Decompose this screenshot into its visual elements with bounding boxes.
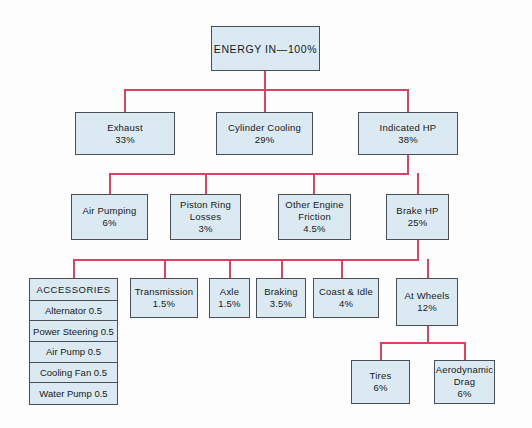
node-indicated-hp-label: Indicated HP [380,122,437,134]
connector-level4-bus [380,342,466,344]
node-coast-and-idle-label: Coast & Idle [319,286,373,298]
node-coast-and-idle[interactable]: Coast & Idle 4% [313,278,379,318]
connector-to-accessories [73,259,75,278]
list-item: Air Pump 0.5 [30,342,117,363]
node-transmission-value: 1.5% [153,298,175,310]
node-brake-hp[interactable]: Brake HP 25% [386,194,449,240]
list-item: Water Pump 0.5 [30,383,117,404]
node-cylinder-cooling-value: 29% [255,134,275,146]
node-piston-ring-losses[interactable]: Piston Ring Losses 3% [170,194,241,240]
node-at-wheels-label: At Wheels [404,290,449,302]
node-aerodynamic-drag[interactable]: Aerodynamic Drag 6% [434,360,495,404]
node-cylinder-cooling[interactable]: Cylinder Cooling 29% [216,112,313,155]
list-item: Power Steering 0.5 [30,321,117,342]
node-air-pumping[interactable]: Air Pumping 6% [71,194,148,240]
node-other-engine-friction-value: 4.5% [303,223,325,235]
node-brake-hp-label: Brake HP [396,205,438,217]
connector-to-indicated-hp [407,89,409,112]
connector-to-piston-ring-losses [205,173,207,194]
connector-brake-hp-stem [417,240,419,261]
connector-to-cylinder-cooling [264,89,266,112]
node-tires-value: 6% [373,382,387,394]
node-brake-hp-value: 25% [408,217,428,229]
connector-level3-bus [73,259,419,261]
connector-to-aerodynamic-drag [464,342,466,360]
node-axle-value: 1.5% [218,298,240,310]
node-cylinder-cooling-label: Cylinder Cooling [228,122,301,134]
connector-level2-bus [109,173,409,175]
node-indicated-hp-value: 38% [398,134,418,146]
node-at-wheels-value: 12% [417,302,437,314]
node-exhaust[interactable]: Exhaust 33% [75,112,175,155]
connector-to-transmission [164,259,166,278]
connector-to-air-pumping [109,173,111,194]
node-tires-label: Tires [370,370,392,382]
accessories-table[interactable]: ACCESSORIES Alternator 0.5 Power Steerin… [29,278,118,405]
node-braking-value: 3.5% [270,298,292,310]
node-braking[interactable]: Braking 3.5% [256,278,306,318]
connector-to-braking [281,259,283,278]
node-air-pumping-label: Air Pumping [83,205,137,217]
connector-to-brake-hp [417,173,419,194]
node-piston-ring-losses-label: Piston Ring Losses [171,199,240,223]
connector-to-exhaust [124,89,126,112]
node-piston-ring-losses-value: 3% [198,223,212,235]
connector-to-at-wheels [427,259,429,278]
node-exhaust-value: 33% [115,134,135,146]
connector-indicated-hp-stem [407,155,409,175]
node-air-pumping-value: 6% [102,217,116,229]
connector-level1-bus [124,89,409,91]
list-item: Cooling Fan 0.5 [30,363,117,384]
node-axle[interactable]: Axle 1.5% [209,278,250,318]
node-indicated-hp[interactable]: Indicated HP 38% [358,112,458,155]
node-energy-in-label: ENERGY IN—100% [214,43,317,55]
node-aerodynamic-drag-label: Aerodynamic Drag [435,364,494,388]
node-tires[interactable]: Tires 6% [351,360,410,404]
node-other-engine-friction-label: Other Engine Friction [279,199,350,223]
connector-root-stem [264,71,266,91]
node-braking-label: Braking [264,286,298,298]
node-transmission-label: Transmission [135,286,194,298]
node-other-engine-friction[interactable]: Other Engine Friction 4.5% [278,194,351,240]
node-aerodynamic-drag-value: 6% [457,388,471,400]
list-item: Alternator 0.5 [30,301,117,322]
node-energy-in[interactable]: ENERGY IN—100% [211,26,320,71]
connector-to-other-engine-friction [313,173,315,194]
energy-flow-diagram: ENERGY IN—100% Exhaust 33% Cylinder Cool… [0,0,532,428]
node-axle-label: Axle [220,286,239,298]
connector-to-coast-and-idle [341,259,343,278]
node-at-wheels[interactable]: At Wheels 12% [396,278,458,326]
node-coast-and-idle-value: 4% [339,298,353,310]
node-exhaust-label: Exhaust [107,122,143,134]
node-transmission[interactable]: Transmission 1.5% [130,278,198,318]
accessories-header: ACCESSORIES [30,279,117,301]
connector-to-tires [380,342,382,360]
connector-to-axle [229,259,231,278]
